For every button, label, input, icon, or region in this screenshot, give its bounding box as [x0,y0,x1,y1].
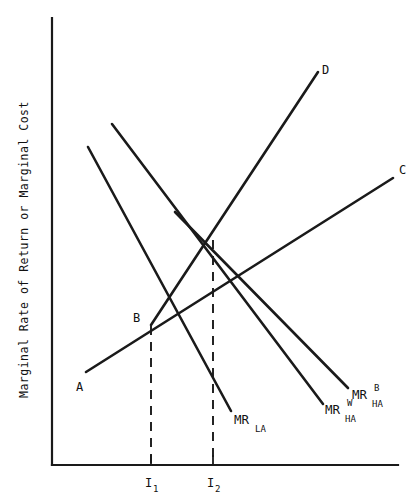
curve-label-mr-la: MR LA [234,412,266,434]
curve-label-mr-ha-b-base: MR [352,387,368,402]
point-label-a: A [76,380,84,394]
point-label-d: D [322,63,329,77]
y-axis-label: Marginal Rate of Return or Marginal Cost [17,101,31,398]
curve-label-mr-ha-b-sup: B [374,383,379,393]
curve-label-mr-ha-w: MR W HA [325,398,356,424]
curve-mr-ha-w [112,124,323,404]
curve-label-mr-ha-w-sup: W [347,398,353,408]
chart-svg: Marginal Rate of Return or Marginal Cost… [0,0,415,503]
curve-label-mr-ha-b-sub: HA [372,399,383,409]
point-label-c: C [399,163,406,177]
point-label-b: B [133,311,140,325]
curve-label-mr-ha-w-sub: HA [345,414,356,424]
curve-label-mr-ha-b: MR B HA [352,383,383,409]
x-tick-label-i2-base: I [207,476,214,490]
x-tick-label-i1: I 1 [145,476,158,494]
x-tick-label-i2-sub: 2 [215,484,220,494]
curve-label-mr-la-sub: LA [255,424,266,434]
curve-label-mr-la-base: MR [234,412,250,427]
x-tick-label-i2: I 2 [207,476,220,494]
x-tick-label-i1-sub: 1 [153,484,158,494]
curve-marginal-cost-ac [86,178,393,372]
x-tick-label-i1-base: I [145,476,152,490]
chart-figure: Marginal Rate of Return or Marginal Cost… [0,0,415,503]
curve-label-mr-ha-w-base: MR [325,402,341,417]
